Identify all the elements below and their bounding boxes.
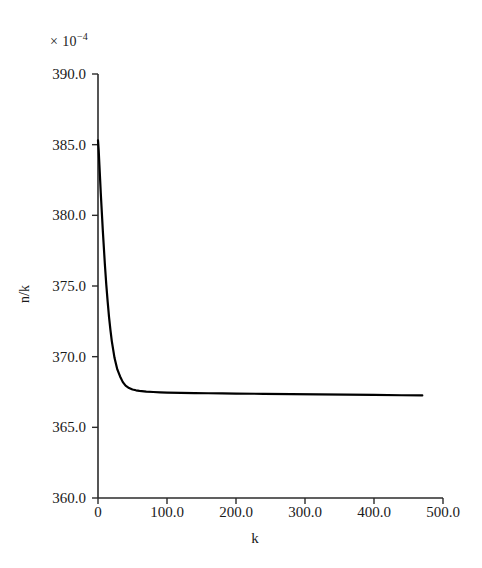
plot-area (0, 0, 482, 568)
data-line-n-over-k (98, 140, 422, 395)
axis-ticks (92, 74, 443, 504)
chart-figure: × 10−4 n/k k 360.0365.0370.0375.0380.038… (0, 0, 482, 568)
